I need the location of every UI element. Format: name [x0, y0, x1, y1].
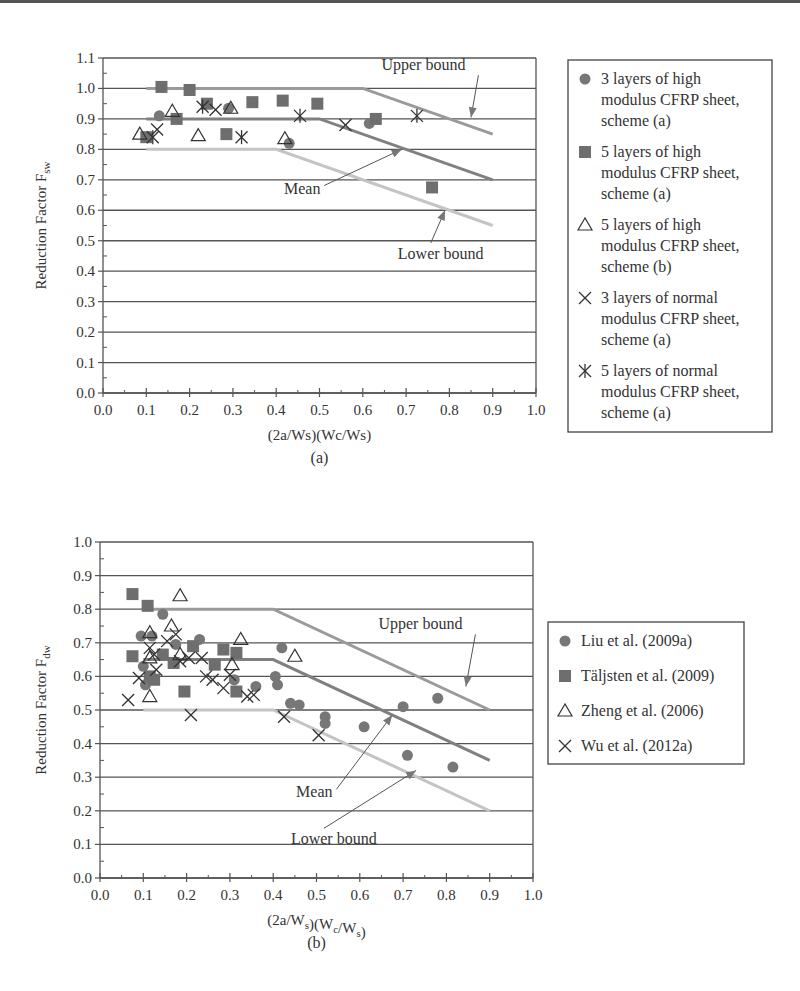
data-point-triangle: [143, 690, 157, 702]
data-point-square: [217, 644, 229, 656]
legend-marker-circle: [580, 74, 591, 85]
x-tick-label: 0.4: [264, 887, 283, 903]
data-point-triangle: [191, 129, 205, 141]
legend-label: 5 layers of high: [601, 216, 701, 234]
y-tick-label: 1.0: [73, 534, 92, 550]
y-axis-title: Reduction Factor Fdw: [33, 645, 52, 774]
panel-label: (b): [307, 934, 326, 952]
y-tick-label: 1.1: [76, 50, 95, 66]
legend-marker-square: [579, 146, 591, 158]
y-tick-label: 0.8: [76, 141, 95, 157]
data-point-x: [122, 694, 134, 706]
legend: Liu et al. (2009a)Täljsten et al. (2009)…: [548, 622, 744, 764]
data-point-circle: [272, 679, 283, 690]
data-point-circle: [136, 631, 147, 642]
x-tick-label: 0.4: [267, 402, 286, 418]
data-point-square: [155, 81, 167, 93]
y-tick-label: 0.8: [73, 601, 92, 617]
legend-label: scheme (b): [601, 258, 672, 276]
legend-label: 3 layers of high: [601, 70, 701, 88]
x-tick-label: 0.0: [94, 402, 113, 418]
y-tick-label: 0.1: [76, 355, 95, 371]
data-point-square: [178, 686, 190, 698]
data-point-circle: [432, 693, 443, 704]
legend-label: modulus CFRP sheet,: [601, 164, 740, 181]
legend-label: Zheng et al. (2006): [581, 702, 704, 720]
data-point-square: [126, 588, 138, 600]
x-tick-label: 0.9: [480, 887, 499, 903]
annotation-mean: Mean: [284, 180, 320, 197]
legend-label: modulus CFRP sheet,: [601, 91, 740, 108]
x-tick-label: 0.2: [177, 887, 196, 903]
data-point-x: [161, 635, 173, 647]
y-tick-label: 0.0: [76, 385, 95, 401]
annotation-arrowhead: [437, 210, 445, 221]
y-tick-label: 0.6: [76, 202, 95, 218]
legend-label: scheme (a): [601, 331, 671, 349]
chart-panel-a: 0.00.10.20.30.40.50.60.70.80.91.01.10.00…: [33, 50, 772, 467]
x-tick-label: 0.6: [353, 402, 372, 418]
x-tick-label: 0.6: [350, 887, 369, 903]
data-point-circle: [276, 642, 287, 653]
chart-panel-b: 0.00.10.20.30.40.50.60.70.80.91.00.00.10…: [33, 534, 744, 952]
legend: 3 layers of highmodulus CFRP sheet,schem…: [568, 60, 772, 432]
x-tick-label: 0.0: [91, 887, 110, 903]
data-point-asterisk: [236, 130, 248, 144]
data-point-x: [170, 628, 182, 640]
annotation-arrowhead: [469, 107, 477, 118]
legend-label: modulus CFRP sheet,: [601, 237, 740, 254]
y-tick-label: 0.3: [73, 769, 92, 785]
data-point-square: [277, 95, 289, 107]
legend-marker-square: [559, 670, 571, 682]
data-point-circle: [250, 681, 261, 692]
legend-label: 5 layers of high: [601, 143, 701, 161]
panel-label: (a): [311, 449, 329, 467]
x-tick-label: 0.9: [483, 402, 502, 418]
x-axis-title-part: ): [361, 924, 366, 941]
data-point-square: [171, 113, 183, 125]
data-point-triangle: [288, 649, 302, 661]
legend-label: 3 layers of normal: [601, 289, 718, 307]
y-axis-title-subscript: sw: [40, 161, 52, 173]
x-tick-label: 0.2: [180, 402, 199, 418]
y-axis-title: Reduction Factor Fsw: [33, 161, 52, 289]
legend-item: Täljsten et al. (2009): [559, 667, 714, 685]
x-tick-label: 0.1: [134, 887, 153, 903]
data-point-square: [246, 96, 258, 108]
data-point-circle: [447, 762, 458, 773]
y-tick-label: 0.0: [73, 870, 92, 886]
data-point-circle: [294, 699, 305, 710]
legend-label: scheme (a): [601, 185, 671, 203]
data-point-square: [220, 128, 232, 140]
data-point-square: [142, 600, 154, 612]
y-tick-label: 1.0: [76, 80, 95, 96]
annotation-arrow-line: [324, 770, 416, 828]
legend-label: Täljsten et al. (2009): [581, 667, 714, 685]
y-tick-label: 0.7: [73, 635, 92, 651]
data-point-triangle: [173, 589, 187, 601]
annotation-mean: Mean: [296, 783, 332, 800]
y-tick-label: 0.2: [73, 803, 92, 819]
x-axis-title-part: )(W: [309, 916, 334, 933]
data-point-circle: [359, 721, 370, 732]
legend-label: Liu et al. (2009a): [581, 632, 692, 650]
y-tick-label: 0.9: [73, 568, 92, 584]
data-point-asterisk: [294, 109, 306, 123]
legend-label: modulus CFRP sheet,: [601, 310, 740, 327]
y-tick-label: 0.7: [76, 172, 95, 188]
legend-label: Wu et al. (2012a): [581, 737, 692, 755]
data-point-x: [183, 652, 195, 664]
y-tick-label: 0.3: [76, 294, 95, 310]
x-axis-title-part: (2a/W: [267, 912, 305, 929]
y-tick-label: 0.2: [76, 324, 95, 340]
x-tick-label: 0.7: [394, 887, 413, 903]
y-tick-label: 0.1: [73, 836, 92, 852]
data-point-x: [196, 652, 208, 664]
y-tick-label: 0.5: [76, 233, 95, 249]
data-point-square: [209, 659, 221, 671]
y-axis-title-main: Reduction Factor F: [33, 659, 49, 775]
x-tick-label: 1.0: [527, 402, 546, 418]
annotation-arrowhead: [383, 715, 392, 725]
x-tick-label: 1.0: [524, 887, 543, 903]
data-point-circle: [157, 609, 168, 620]
